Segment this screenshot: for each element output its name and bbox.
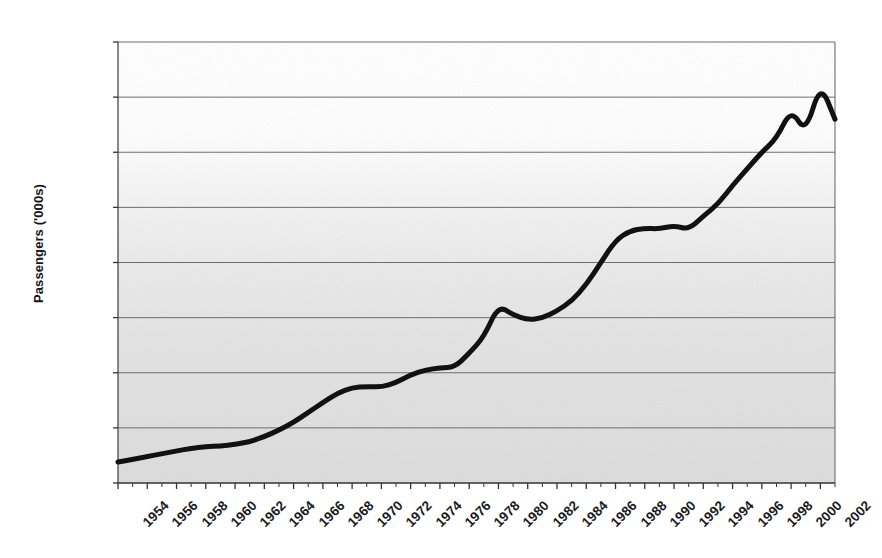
x-axis-tick-label: 1992	[696, 498, 728, 530]
line-chart: Passengers ('000s) 010000020000030000040…	[0, 0, 882, 558]
x-axis-tick-label: 1988	[637, 498, 669, 530]
x-axis-tick-label: 1982	[550, 498, 582, 530]
x-axis-tick-label: 1972	[403, 498, 435, 530]
y-axis-ticks	[113, 42, 118, 483]
x-axis-tick-label: 1990	[667, 498, 699, 530]
y-axis-tick-labels: 0100000200000300000400000500000600000700…	[0, 0, 110, 558]
x-axis-tick-label: 1986	[608, 498, 640, 530]
x-axis-tick-label: 1994	[725, 498, 757, 530]
x-axis-tick-label: 1978	[491, 498, 523, 530]
x-axis-tick-label: 1970	[374, 498, 406, 530]
plot-area	[0, 0, 882, 558]
x-axis-tick-label: 1968	[345, 498, 377, 530]
x-axis-tick-labels: 1954195619581960196219641966196819701972…	[0, 492, 882, 558]
x-axis-tick-label: 1966	[315, 498, 347, 530]
x-axis-tick-label: 1976	[462, 498, 494, 530]
x-axis-tick-label: 2002	[842, 498, 874, 530]
x-axis-tick-label: 1974	[432, 498, 464, 530]
x-axis-ticks	[118, 483, 835, 489]
x-axis-tick-label: 1980	[520, 498, 552, 530]
x-axis-tick-label: 1958	[198, 498, 230, 530]
x-axis-tick-label: 2000	[813, 498, 845, 530]
x-axis-tick-label: 1984	[579, 498, 611, 530]
x-axis-tick-label: 1996	[754, 498, 786, 530]
x-axis-tick-label: 1954	[140, 498, 172, 530]
x-axis-tick-label: 1962	[257, 498, 289, 530]
x-axis-tick-label: 1956	[169, 498, 201, 530]
x-axis-tick-label: 1960	[228, 498, 260, 530]
x-axis-tick-label: 1998	[784, 498, 816, 530]
x-axis-tick-label: 1964	[286, 498, 318, 530]
